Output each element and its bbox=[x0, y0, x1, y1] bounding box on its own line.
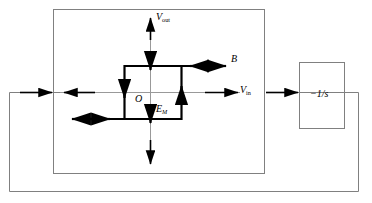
hysteresis-width-label: EM bbox=[156, 104, 167, 114]
vout-axis-label: Vout bbox=[156, 12, 170, 22]
nonlinearity-block-border bbox=[54, 10, 265, 174]
loop-direction-arrows bbox=[72, 58, 226, 123]
diagram-canvas: Vout Vin B O EM −1/s bbox=[0, 0, 372, 203]
outer-feedback-path bbox=[10, 93, 359, 192]
vin-axis-label: Vin bbox=[240, 85, 251, 95]
origin-label: O bbox=[135, 94, 142, 104]
diagram-svg bbox=[0, 0, 372, 203]
integrator-block-label: −1/s bbox=[310, 89, 328, 99]
amplitude-label-b: B bbox=[231, 54, 237, 64]
